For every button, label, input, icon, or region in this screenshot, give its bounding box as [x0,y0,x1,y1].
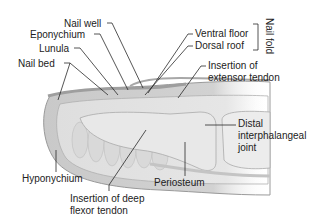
label-distal-ip-2: interphalangeal [238,130,306,141]
label-distal-ip-1: Distal [238,118,263,129]
nail-fold-bracket [253,24,258,50]
label-dorsal-roof: Dorsal roof [195,40,244,51]
label-hyponychium: Hyponychium [22,173,83,184]
label-nail-fold: Nail fold [264,18,275,54]
label-eponychium: Eponychium [30,29,85,40]
label-lunula: Lunula [39,43,69,54]
label-nail-well: Nail well [64,18,101,29]
label-insertion-flexor-2: flexor tendon [70,205,128,216]
label-nail-bed: Nail bed [18,58,55,69]
label-insertion-extensor-1: Insertion of [208,60,257,71]
label-insertion-extensor-2: extensor tendon [208,72,280,83]
label-periosteum: Periosteum [154,177,205,188]
label-insertion-flexor-1: Insertion of deep [70,193,145,204]
nail-anatomy-diagram: Nail well Eponychium Lunula Nail bed Ven… [0,0,327,219]
label-distal-ip-3: joint [238,142,256,153]
label-ventral-floor: Ventral floor [195,28,248,39]
